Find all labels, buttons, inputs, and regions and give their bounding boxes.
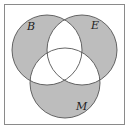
set-e-label: E [90, 19, 99, 32]
venn-diagram: B E M [0, 0, 129, 130]
set-b-label: B [26, 20, 35, 33]
set-m-label: M [75, 100, 88, 113]
